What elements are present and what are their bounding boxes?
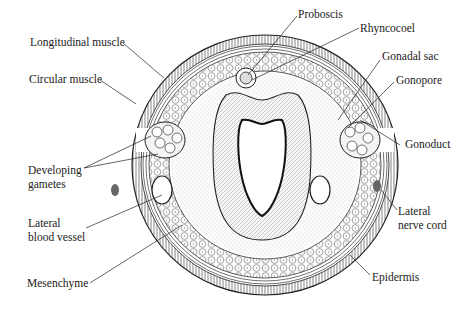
lateral-nerve-cord-left [111,184,119,196]
label-lateral-nerve-cord-line1: Lateral [398,205,431,218]
lateral-blood-vessel-right [310,176,330,204]
label-mesenchyme: Mesenchyme [27,277,88,290]
label-circular-muscle: Circular muscle [29,73,102,86]
label-rhyncocoel: Rhyncocoel [360,22,415,35]
gonadal-sac-left [145,122,185,158]
label-developing-gametes-line1: Developing [28,164,82,177]
label-lateral-blood-vessel-line1: Lateral [28,217,61,230]
lateral-blood-vessel-left [152,176,172,204]
label-epidermis: Epidermis [372,271,419,284]
intestine [213,93,311,240]
label-gonoduct: Gonoduct [405,138,450,151]
label-lateral-nerve-cord-line2: nerve cord [398,219,447,232]
label-lateral-blood-vessel-line2: blood vessel [28,231,85,244]
label-gonadal-sac: Gonadal sac [382,50,439,63]
label-proboscis: Proboscis [298,8,343,21]
label-gonopore: Gonopore [396,74,442,87]
label-developing-gametes-line2: gametes [28,178,66,191]
rhyncocoel-proboscis [236,68,256,88]
label-longitudinal-muscle: Longitudinal muscle [30,36,125,49]
lateral-nerve-cord-right [373,180,381,192]
gonadal-sac-right [340,122,380,158]
